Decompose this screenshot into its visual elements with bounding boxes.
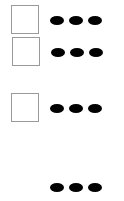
more-horizontal-icon <box>50 104 64 113</box>
more-horizontal-icon <box>51 48 65 57</box>
more-horizontal-icon <box>88 104 102 113</box>
more-options-button-4[interactable] <box>50 182 102 192</box>
more-horizontal-icon <box>70 48 84 57</box>
more-options-button-1[interactable] <box>50 15 102 25</box>
more-horizontal-icon <box>69 183 83 192</box>
more-options-button-3[interactable] <box>50 103 102 113</box>
more-horizontal-icon <box>50 183 64 192</box>
more-horizontal-icon <box>50 16 64 25</box>
more-horizontal-icon <box>88 16 102 25</box>
more-horizontal-icon <box>69 16 83 25</box>
more-horizontal-icon <box>69 104 83 113</box>
checkbox-2[interactable] <box>12 37 40 66</box>
more-horizontal-icon <box>89 48 103 57</box>
checkbox-3[interactable] <box>11 93 39 122</box>
more-horizontal-icon <box>88 183 102 192</box>
more-options-button-2[interactable] <box>51 47 103 57</box>
checkbox-1[interactable] <box>11 5 39 34</box>
